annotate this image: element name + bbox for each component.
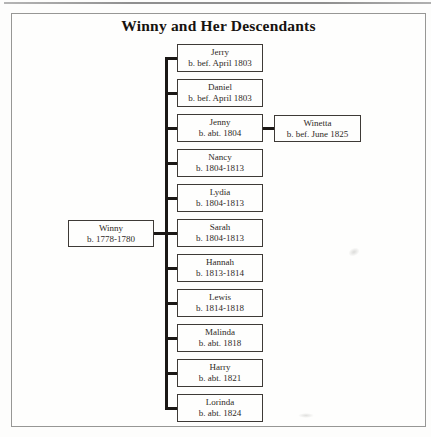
connector-lorinda [165,407,177,410]
connector-lewis [165,302,177,305]
person-dates: b. 1813-1814 [196,268,244,279]
person-dates: b. abt. 1818 [199,338,242,349]
person-dates: b. 1804-1813 [196,198,244,209]
person-dates: b. 1804-1813 [196,163,244,174]
connector-nancy [165,162,177,165]
connector-winny-sarah [154,232,177,235]
person-box-jenny: Jenny b. abt. 1804 [177,114,263,142]
person-name: Hannah [206,257,234,268]
person-box-sarah: Sarah b. 1804-1813 [177,219,263,247]
person-box-harry: Harry b. abt. 1821 [177,359,263,387]
scanned-page: Winny and Her Descendants Winny b. 1778-… [0,0,431,437]
person-box-lydia: Lydia b. 1804-1813 [177,184,263,212]
person-dates: b. bef. April 1803 [188,93,252,104]
person-dates: b. 1814-1818 [196,303,244,314]
person-name: Harry [210,362,231,373]
person-name: Lorinda [206,397,235,408]
connector-jerry [165,57,177,60]
person-name: Lydia [210,187,231,198]
person-dates: b. 1778-1780 [87,234,135,245]
person-dates: b. 1804-1813 [196,233,244,244]
person-dates: b. abt. 1824 [199,408,242,419]
person-box-lorinda: Lorinda b. abt. 1824 [177,394,263,422]
person-dates: b. abt. 1821 [199,373,242,384]
person-name: Malinda [205,327,235,338]
person-box-malinda: Malinda b. abt. 1818 [177,324,263,352]
connector-harry [165,372,177,375]
person-name: Sarah [210,222,231,233]
chart-title: Winny and Her Descendants [12,17,425,35]
person-name: Jerry [211,47,229,58]
person-name: Nancy [208,152,232,163]
connector-daniel [165,92,177,95]
person-box-jerry: Jerry b. bef. April 1803 [177,44,263,72]
person-box-hannah: Hannah b. 1813-1814 [177,254,263,282]
person-name: Jenny [210,117,231,128]
connector-jenny [165,127,177,130]
scan-artifact-top-line [4,2,431,4]
person-dates: b. bef. April 1803 [188,58,252,69]
person-name: Lewis [209,292,231,303]
person-dates: b. abt. 1804 [199,128,242,139]
person-name: Winetta [303,118,331,129]
person-dates: b. bef. June 1825 [287,129,349,140]
person-box-winetta: Winetta b. bef. June 1825 [274,115,361,142]
person-box-nancy: Nancy b. 1804-1813 [177,149,263,177]
person-box-lewis: Lewis b. 1814-1818 [177,289,263,317]
connector-malinda [165,337,177,340]
person-name: Winny [99,223,123,234]
connector-lydia [165,197,177,200]
connector-hannah [165,267,177,270]
person-box-daniel: Daniel b. bef. April 1803 [177,79,263,107]
person-box-winny: Winny b. 1778-1780 [68,220,154,247]
person-name: Daniel [208,82,232,93]
